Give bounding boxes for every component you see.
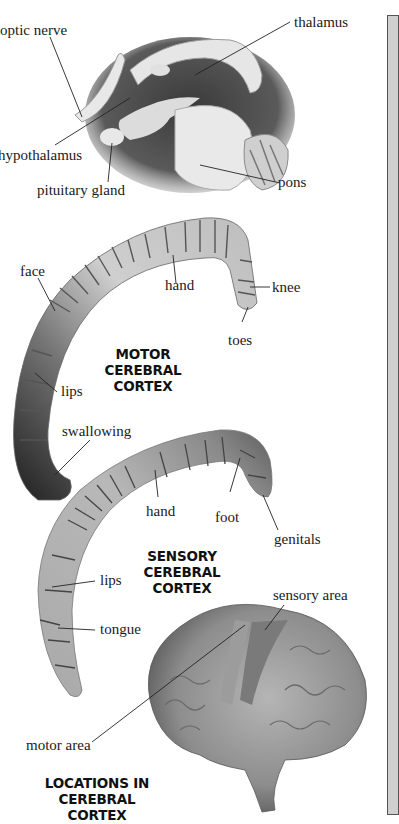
label-thalamus: thalamus <box>294 15 348 30</box>
whole-brain-image <box>148 604 366 812</box>
label-optic-nerve: optic nerve <box>0 23 67 38</box>
motor-cortex-title-line2: CORTEX <box>78 378 208 394</box>
brain-locations-title-line2: CEREBRAL CORTEX <box>32 791 162 823</box>
brain-locations-title: LOCATIONS IN CEREBRAL CORTEX <box>32 775 162 823</box>
sensory-cortex-title: SENSORY CEREBRAL CORTEX <box>112 548 252 596</box>
label-motor-hand: hand <box>165 278 194 293</box>
label-motor-area: motor area <box>26 738 91 753</box>
brain-section-image <box>75 37 295 193</box>
label-motor-toes: toes <box>228 333 252 348</box>
label-sensory-area: sensory area <box>273 588 348 603</box>
label-motor-face: face <box>20 264 45 279</box>
label-motor-knee: knee <box>272 280 300 295</box>
label-sensory-tongue: tongue <box>100 622 141 637</box>
label-pituitary-gland: pituitary gland <box>37 183 125 198</box>
sensory-cortex-title-line2: CORTEX <box>112 580 252 596</box>
label-hypothalamus: hypothalamus <box>0 148 82 163</box>
brain-locations-title-line1: LOCATIONS IN <box>32 775 162 791</box>
label-motor-swallowing: swallowing <box>62 424 131 439</box>
label-pons: pons <box>278 175 306 190</box>
label-sensory-genitals: genitals <box>274 532 321 547</box>
side-panel-edge <box>387 15 399 815</box>
label-sensory-hand: hand <box>146 504 175 519</box>
motor-cortex-title-line1: MOTOR CEREBRAL <box>78 346 208 378</box>
label-sensory-foot: foot <box>215 510 239 525</box>
sensory-cortex-title-line1: SENSORY CEREBRAL <box>112 548 252 580</box>
motor-cortex-title: MOTOR CEREBRAL CORTEX <box>78 346 208 394</box>
